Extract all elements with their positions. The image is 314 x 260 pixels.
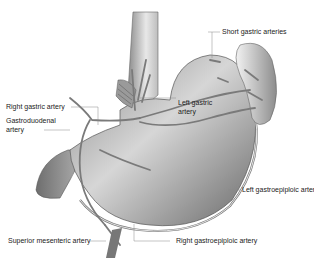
label-superior-mesenteric-artery: Superior mesenteric artery xyxy=(8,237,90,245)
label-left-gastric-line2: artery xyxy=(178,108,196,116)
label-right-gastroepiploic-artery: Right gastroepiploic artery xyxy=(176,237,257,245)
label-gastroduodenal-line1: Gastroduodenal xyxy=(6,117,56,125)
stomach-arteries-diagram: Short gastric arteries Right gastric art… xyxy=(0,0,314,260)
label-gastroduodenal-line2: artery xyxy=(6,126,24,134)
label-right-gastric-artery: Right gastric artery xyxy=(6,103,65,111)
anatomy-illustration xyxy=(0,0,314,260)
stomach xyxy=(70,55,256,226)
label-short-gastric-arteries: Short gastric arteries xyxy=(222,28,287,36)
label-left-gastroepiploic-artery: Left gastroepiploic artery xyxy=(242,186,314,194)
label-left-gastric-line1: Left gastric xyxy=(178,99,212,107)
